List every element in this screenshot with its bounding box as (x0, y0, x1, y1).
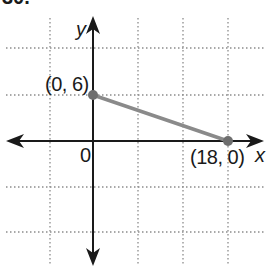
point-label-0-6: (0, 6) (45, 73, 89, 96)
line-segment (93, 95, 228, 141)
point-0-6 (88, 90, 98, 100)
y-axis-label: y (76, 18, 86, 41)
coordinate-plane (0, 0, 276, 269)
point-18-0 (223, 136, 233, 146)
point-label-18-0: (18, 0) (190, 146, 244, 169)
origin-label: 0 (80, 144, 91, 167)
x-axis-label: x (255, 144, 265, 167)
